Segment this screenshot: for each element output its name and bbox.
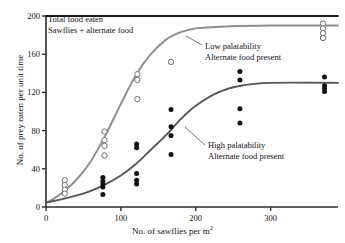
data-point-filled xyxy=(237,69,242,74)
y-tick-label: 200 xyxy=(16,11,40,21)
annotation-total-food: Total food eaten Sawflies + alternate fo… xyxy=(48,14,133,35)
data-point-open xyxy=(320,35,325,40)
x-axis-label: No. of sawflies per m2 xyxy=(0,224,345,236)
data-point-filled xyxy=(169,107,174,112)
x-tick-label: 0 xyxy=(34,213,58,223)
chart-canvas xyxy=(0,0,345,243)
data-point-open xyxy=(62,191,67,196)
x-tick-label: 300 xyxy=(259,213,283,223)
x-axis-label-text: No. of sawflies per m xyxy=(132,226,210,236)
data-point-filled xyxy=(322,89,327,94)
annotation-low-palatability: Low palatability Alternate food present xyxy=(205,41,281,62)
data-point-filled xyxy=(237,77,242,82)
annotation-high-line1: High palatability xyxy=(208,140,284,151)
y-tick-label: 80 xyxy=(16,126,40,136)
data-point-filled xyxy=(169,133,174,138)
data-point-open xyxy=(102,143,107,148)
data-point-filled xyxy=(169,152,174,157)
annotation-high-palatability: High palatability Alternate food present xyxy=(208,140,284,161)
y-tick-label: 0 xyxy=(16,202,40,212)
data-point-filled xyxy=(134,171,139,176)
annotation-high-line2: Alternate food present xyxy=(208,151,284,162)
x-axis-label-exponent: 2 xyxy=(210,224,213,231)
data-point-filled xyxy=(134,182,139,187)
x-tick-label: 100 xyxy=(109,213,133,223)
data-point-filled xyxy=(100,184,105,189)
data-point-open xyxy=(168,59,173,64)
y-axis-label: No. of prey eaten per unit time xyxy=(15,50,25,170)
series-2 xyxy=(47,69,338,202)
data-point-open xyxy=(102,129,107,134)
annotation-total-line2: Sawflies + alternate food xyxy=(48,25,133,36)
data-series-group xyxy=(46,16,338,202)
data-point-filled xyxy=(237,120,242,125)
fitted-curve-1 xyxy=(47,25,338,202)
data-point-open xyxy=(135,96,140,101)
data-point-open xyxy=(135,77,140,82)
figure-container: No. of prey eaten per unit time No. of s… xyxy=(0,0,345,243)
data-point-open xyxy=(135,72,140,77)
data-point-open xyxy=(102,153,107,158)
data-point-filled xyxy=(322,75,327,80)
data-point-filled xyxy=(237,106,242,111)
annotation-low-line1: Low palatability xyxy=(205,41,281,52)
annotation-low-line2: Alternate food present xyxy=(205,52,281,63)
x-tick-label: 200 xyxy=(184,213,208,223)
data-point-filled xyxy=(169,124,174,129)
fitted-curve-2 xyxy=(47,83,338,203)
data-point-filled xyxy=(100,192,105,197)
data-point-filled xyxy=(134,145,139,150)
series-1 xyxy=(47,21,338,202)
y-tick-label: 40 xyxy=(16,164,40,174)
axes-lines xyxy=(46,16,338,207)
annotation-total-line1: Total food eaten xyxy=(48,14,133,25)
y-tick-label: 160 xyxy=(16,49,40,59)
data-point-open xyxy=(102,137,107,142)
y-tick-label: 120 xyxy=(16,87,40,97)
annotation-leader-lines xyxy=(185,36,205,145)
